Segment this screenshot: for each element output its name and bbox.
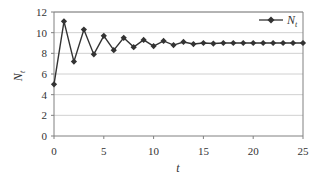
data-point-marker xyxy=(51,81,57,87)
data-point-marker xyxy=(91,51,97,57)
y-tick-label: 12 xyxy=(36,6,47,18)
x-tick-label: 5 xyxy=(101,145,107,157)
data-point-marker xyxy=(280,40,286,46)
y-tick-label: 10 xyxy=(36,27,48,39)
data-point-marker xyxy=(220,40,226,46)
legend: Nt xyxy=(259,13,298,29)
y-tick-label: 8 xyxy=(42,47,48,59)
y-axis-ticks: 024681012 xyxy=(36,6,54,142)
x-tick-label: 0 xyxy=(51,145,57,157)
x-axis-title: t xyxy=(176,161,180,175)
data-point-marker xyxy=(270,40,276,46)
y-tick-label: 4 xyxy=(42,89,48,101)
series-line xyxy=(54,21,303,84)
data-point-marker xyxy=(160,38,166,44)
y-tick-label: 2 xyxy=(42,109,48,121)
data-point-marker xyxy=(190,41,196,47)
data-point-marker xyxy=(180,39,186,45)
line-chart: 024681012 0510152025 Nt t Nt xyxy=(0,0,323,186)
legend-label: Nt xyxy=(286,13,298,29)
data-point-marker xyxy=(210,40,216,46)
x-axis-ticks: 0510152025 xyxy=(51,136,309,157)
x-tick-label: 25 xyxy=(298,145,310,157)
data-point-marker xyxy=(300,40,306,46)
data-point-marker xyxy=(260,40,266,46)
y-axis-title: Nt xyxy=(11,70,27,82)
grid-lines xyxy=(54,12,303,115)
x-tick-label: 20 xyxy=(248,145,260,157)
series-nt xyxy=(51,18,306,87)
data-point-marker xyxy=(240,40,246,46)
data-point-marker xyxy=(230,40,236,46)
y-tick-label: 6 xyxy=(42,68,48,80)
data-point-marker xyxy=(150,43,156,49)
data-point-marker xyxy=(71,58,77,64)
x-tick-label: 10 xyxy=(148,145,160,157)
data-point-marker xyxy=(290,40,296,46)
data-point-marker xyxy=(200,40,206,46)
data-point-marker xyxy=(170,42,176,48)
legend-marker-icon xyxy=(267,16,274,23)
data-point-marker xyxy=(61,18,67,24)
data-point-marker xyxy=(81,26,87,32)
data-point-marker xyxy=(250,40,256,46)
x-tick-label: 15 xyxy=(198,145,210,157)
y-tick-label: 0 xyxy=(42,130,48,142)
